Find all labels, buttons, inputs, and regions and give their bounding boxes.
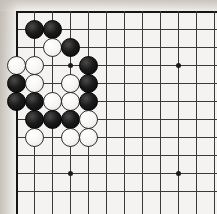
grid-line-vertical-10 xyxy=(196,11,197,214)
black-stone-3-6[interactable] xyxy=(61,110,80,129)
black-stone-2-1[interactable] xyxy=(43,20,62,39)
star-point-9-3 xyxy=(176,63,181,68)
grid-line-horizontal-4 xyxy=(16,83,217,84)
white-stone-0-3[interactable] xyxy=(7,56,26,75)
black-stone-1-1[interactable] xyxy=(25,20,44,39)
grid-line-vertical-9 xyxy=(178,11,179,214)
white-stone-2-2[interactable] xyxy=(43,38,62,57)
black-stone-4-3[interactable] xyxy=(79,56,98,75)
grid-line-horizontal-9 xyxy=(16,173,217,174)
black-stone-1-6[interactable] xyxy=(25,110,44,129)
black-stone-0-5[interactable] xyxy=(7,92,26,111)
black-stone-3-2[interactable] xyxy=(61,38,80,57)
grid-line-horizontal-3 xyxy=(16,65,217,66)
grid-line-horizontal-8 xyxy=(16,155,217,156)
black-stone-4-5[interactable] xyxy=(79,92,98,111)
white-stone-1-3[interactable] xyxy=(25,56,44,75)
board-grid[interactable] xyxy=(0,0,217,214)
white-stone-4-7[interactable] xyxy=(79,128,98,147)
grid-line-vertical-11 xyxy=(214,11,215,214)
grid-line-vertical-0 xyxy=(16,11,18,214)
grid-line-horizontal-7 xyxy=(16,137,217,138)
star-point-3-3 xyxy=(68,63,73,68)
white-stone-1-7[interactable] xyxy=(25,128,44,147)
grid-line-vertical-6 xyxy=(124,11,125,214)
black-stone-0-4[interactable] xyxy=(7,74,26,93)
white-stone-3-4[interactable] xyxy=(61,74,80,93)
white-stone-2-5[interactable] xyxy=(43,92,62,111)
white-stone-3-5[interactable] xyxy=(61,92,80,111)
black-stone-2-6[interactable] xyxy=(43,110,62,129)
grid-line-horizontal-0 xyxy=(16,11,217,13)
black-stone-1-5[interactable] xyxy=(25,92,44,111)
star-point-3-9 xyxy=(68,171,73,176)
black-stone-4-4[interactable] xyxy=(79,74,98,93)
white-stone-3-7[interactable] xyxy=(61,128,80,147)
grid-line-vertical-5 xyxy=(106,11,107,214)
go-board-app xyxy=(0,0,217,214)
grid-line-vertical-7 xyxy=(142,11,143,214)
white-stone-1-4[interactable] xyxy=(25,74,44,93)
grid-line-vertical-8 xyxy=(160,11,161,214)
white-stone-4-6[interactable] xyxy=(79,110,98,129)
star-point-9-9 xyxy=(176,171,181,176)
grid-line-horizontal-10 xyxy=(16,191,217,192)
